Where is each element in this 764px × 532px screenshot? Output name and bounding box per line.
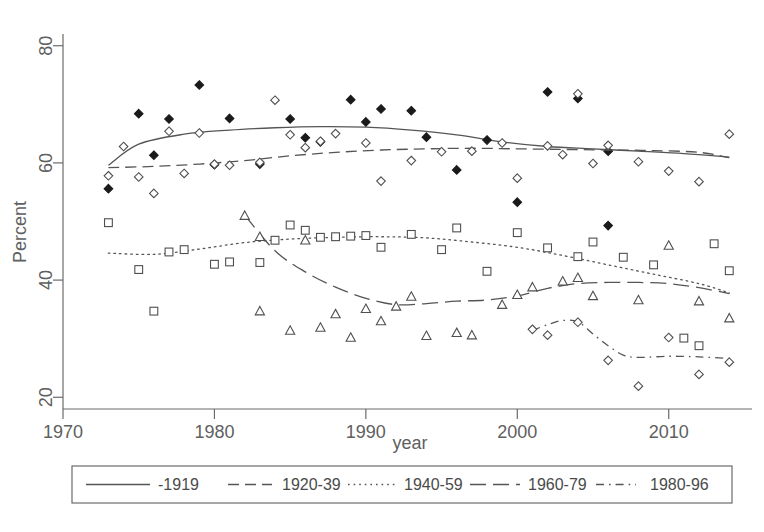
data-point-open-square bbox=[513, 229, 521, 237]
data-point-open-square bbox=[317, 233, 325, 241]
x-tick-label: 1980 bbox=[194, 422, 234, 442]
x-tick-label: 1990 bbox=[346, 422, 386, 442]
data-point-open-square bbox=[453, 224, 461, 232]
data-point-open-square bbox=[407, 230, 415, 238]
legend-label: 1960-79 bbox=[528, 476, 587, 493]
x-tick-label: 2010 bbox=[649, 422, 689, 442]
y-tick-label: 60 bbox=[36, 153, 56, 173]
data-point-open-square bbox=[301, 226, 309, 234]
data-point-open-square bbox=[256, 259, 264, 267]
data-point-open-square bbox=[619, 253, 627, 261]
data-point-open-square bbox=[286, 221, 294, 229]
y-tick-label: 20 bbox=[36, 387, 56, 407]
data-point-open-square bbox=[438, 246, 446, 254]
legend-label: 1940-59 bbox=[404, 476, 463, 493]
data-point-open-square bbox=[271, 236, 279, 244]
x-tick-label: 2000 bbox=[497, 422, 537, 442]
data-point-open-square bbox=[574, 253, 582, 261]
data-point-open-square bbox=[362, 232, 370, 240]
data-point-open-square bbox=[650, 261, 658, 269]
data-point-open-square bbox=[226, 258, 234, 266]
data-point-open-square bbox=[483, 267, 491, 275]
x-axis-title: year bbox=[392, 433, 427, 453]
data-point-open-square bbox=[710, 240, 718, 248]
legend-label: 1920-39 bbox=[282, 476, 341, 493]
data-point-open-square bbox=[725, 267, 733, 275]
data-point-open-square bbox=[180, 246, 188, 254]
y-axis-title: Percent bbox=[10, 201, 30, 263]
data-point-open-square bbox=[150, 307, 158, 315]
data-point-open-square bbox=[589, 238, 597, 246]
y-tick-label: 80 bbox=[36, 36, 56, 56]
x-tick-label: 1970 bbox=[43, 422, 83, 442]
data-point-open-square bbox=[377, 243, 385, 251]
chart-legend: -19191920-391940-591960-791980-96 bbox=[72, 466, 732, 503]
data-point-open-square bbox=[695, 342, 703, 350]
data-point-open-square bbox=[211, 260, 219, 268]
data-point-open-square bbox=[105, 219, 113, 227]
chart-svg: 20406080 Percent 19701980199020002010 ye… bbox=[0, 0, 764, 532]
y-tick-label: 40 bbox=[36, 270, 56, 290]
chart-figure: 20406080 Percent 19701980199020002010 ye… bbox=[0, 0, 764, 532]
data-point-open-square bbox=[680, 334, 688, 342]
legend-label: 1980-96 bbox=[650, 476, 709, 493]
legend-label: -1919 bbox=[158, 476, 199, 493]
data-point-open-square bbox=[544, 244, 552, 252]
data-point-open-square bbox=[347, 232, 355, 240]
data-point-open-square bbox=[135, 266, 143, 274]
data-point-open-square bbox=[332, 233, 340, 241]
data-point-open-square bbox=[165, 248, 173, 256]
